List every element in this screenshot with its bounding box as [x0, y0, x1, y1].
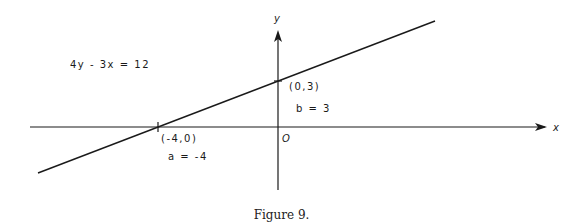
figure-9: y x O 4y - 3x = 12 (0,3) b = 3 (-4,0) a … — [0, 0, 563, 222]
y-intercept-label: (0,3) — [289, 82, 320, 92]
x-intercept-label: (-4,0) — [161, 134, 197, 144]
graph-canvas — [0, 0, 563, 222]
y-axis-label: y — [274, 14, 281, 24]
x-intercept-note: a = -4 — [168, 152, 208, 162]
equation-label: 4y - 3x = 12 — [70, 60, 150, 70]
equation-line — [38, 21, 435, 173]
x-axis-label: x — [553, 123, 560, 133]
origin-label: O — [282, 134, 291, 144]
y-intercept-note: b = 3 — [296, 104, 331, 114]
figure-caption: Figure 9. — [0, 209, 563, 221]
